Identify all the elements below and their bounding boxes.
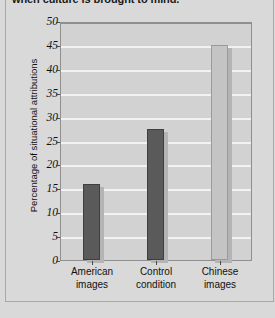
y-axis-tick-label: 10 bbox=[32, 207, 58, 219]
x-axis-tick-mark bbox=[92, 261, 93, 265]
gridline bbox=[61, 22, 251, 24]
y-axis-tick-label: 30 bbox=[32, 112, 58, 124]
bar bbox=[83, 184, 100, 260]
y-axis-tick-mark bbox=[56, 261, 60, 262]
figure-caption: when culture is brought to mind. bbox=[12, 0, 262, 7]
bar bbox=[211, 45, 228, 260]
x-axis-tick-mark bbox=[220, 261, 221, 265]
y-axis-tick-label: 40 bbox=[32, 64, 58, 76]
y-axis-tick-label: 45 bbox=[32, 40, 58, 52]
x-axis-tick-label-line: images bbox=[180, 279, 260, 292]
y-axis-tick-label: 5 bbox=[32, 231, 58, 243]
y-axis-tick-label: 0 bbox=[32, 255, 58, 267]
y-axis-tick-label: 25 bbox=[32, 136, 58, 148]
x-axis-tick-mark bbox=[156, 261, 157, 265]
y-axis-tick-label: 15 bbox=[32, 183, 58, 195]
x-axis-tick-label-line: Chinese bbox=[180, 266, 260, 279]
y-axis-tick-label: 20 bbox=[32, 159, 58, 171]
y-axis-tick-labels: 05101520253035404550 bbox=[28, 22, 58, 261]
plot-area bbox=[60, 22, 252, 261]
x-axis-tick-label: Chineseimages bbox=[180, 266, 260, 291]
bar bbox=[147, 129, 164, 260]
y-axis-tick-label: 35 bbox=[32, 88, 58, 100]
y-axis-tick-label: 50 bbox=[32, 16, 58, 28]
chart-figure: when culture is brought to mind. Percent… bbox=[0, 0, 275, 318]
